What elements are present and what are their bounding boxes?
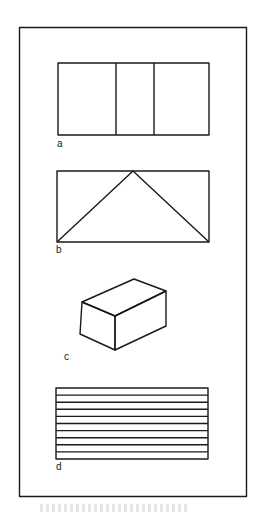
- cut-off-caption: [40, 504, 190, 512]
- outer-frame: [20, 28, 247, 497]
- panel-c-label: c: [64, 352, 69, 362]
- panel-a-drawing: [58, 63, 209, 135]
- panel-d-label: d: [56, 462, 62, 472]
- panel-b-drawing: [57, 171, 209, 242]
- panel-a-label: a: [57, 139, 63, 149]
- figure-canvas: [0, 0, 262, 519]
- panel-b-label: b: [56, 245, 62, 255]
- panel-d-drawing: [56, 388, 208, 459]
- panel-c-box-drawing: [80, 279, 166, 350]
